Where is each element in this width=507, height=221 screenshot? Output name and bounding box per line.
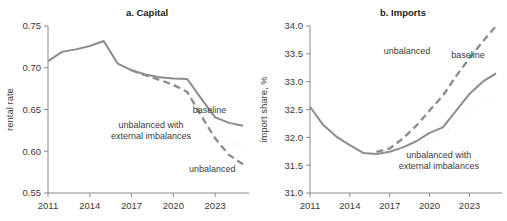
chart-panel-imports: b. Imports31.031.532.032.533.033.534.020… <box>253 0 506 221</box>
series-annotation-label: external imbalances <box>399 161 480 171</box>
x-tick-label: 2011 <box>38 200 58 211</box>
chart-svg-capital: a. Capital0.550.600.650.700.752011201420… <box>0 0 253 221</box>
panel-title: a. Capital <box>126 7 168 18</box>
series-line-dashed <box>376 26 496 152</box>
y-tick-label: 31.0 <box>285 187 304 198</box>
series-annotation-label: baseline <box>193 105 227 115</box>
y-axis-title: import share, % <box>258 76 269 143</box>
y-tick-label: 33.0 <box>285 76 304 87</box>
y-tick-label: 34.0 <box>285 20 304 31</box>
series-annotation-label: unbalanced <box>189 164 236 174</box>
x-tick-label: 2023 <box>459 200 480 211</box>
series-annotation-label: unbalanced with <box>119 120 184 130</box>
y-tick-label: 0.55 <box>23 187 42 198</box>
x-tick-label: 2014 <box>79 200 100 211</box>
x-tick-label: 2020 <box>163 200 184 211</box>
series-line-dashed <box>132 70 243 164</box>
chart-svg-imports: b. Imports31.031.532.032.533.033.534.020… <box>253 0 506 221</box>
y-tick-label: 0.70 <box>23 62 42 73</box>
y-tick-label: 32.5 <box>285 104 304 115</box>
series-annotation-label: external imbalances <box>111 131 192 141</box>
y-tick-label: 0.60 <box>23 146 42 157</box>
x-tick-label: 2011 <box>300 200 320 211</box>
series-annotation-label: unbalanced <box>384 46 431 56</box>
figure-container: a. Capital0.550.600.650.700.752011201420… <box>0 0 507 221</box>
x-tick-label: 2023 <box>205 200 226 211</box>
x-tick-label: 2014 <box>339 200 360 211</box>
series-line-solid <box>310 73 496 154</box>
y-tick-label: 0.65 <box>23 104 42 115</box>
series-annotation-label: baseline <box>451 50 485 60</box>
x-tick-label: 2017 <box>379 200 400 211</box>
series-annotation-label: unbalanced with <box>406 150 471 160</box>
series-line-dotted <box>376 96 496 153</box>
x-tick-label: 2017 <box>121 200 142 211</box>
y-tick-label: 33.5 <box>285 48 304 59</box>
y-tick-label: 32.0 <box>285 132 304 143</box>
y-axis-title: rental rate <box>4 88 15 131</box>
chart-panel-capital: a. Capital0.550.600.650.700.752011201420… <box>0 0 253 221</box>
y-tick-label: 0.75 <box>23 20 42 31</box>
x-tick-label: 2020 <box>419 200 440 211</box>
y-tick-label: 31.5 <box>285 160 304 171</box>
panel-title: b. Imports <box>380 7 426 18</box>
